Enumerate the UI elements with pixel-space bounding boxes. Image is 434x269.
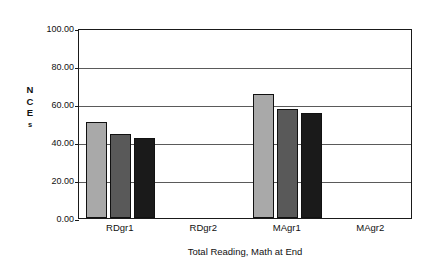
x-axis-tick-label: RDgr1 (78, 222, 162, 234)
y-axis-tick-label: 60.00 (30, 101, 74, 110)
x-axis-title: Total Reading, Math at End (78, 246, 412, 258)
bar (301, 113, 322, 218)
y-axis-tick-mark (75, 220, 79, 221)
bar (86, 122, 107, 218)
y-axis-tick-label: 40.00 (30, 139, 74, 148)
plot-area (78, 29, 412, 219)
bars-layer (79, 30, 411, 218)
bar-chart-figure: N C E s 100.0080.0060.0040.0020.000.00 R… (0, 0, 434, 269)
y-axis-tick-label: 100.00 (30, 25, 74, 34)
y-axis-tick-labels: 100.0080.0060.0040.0020.000.00 (28, 0, 74, 269)
y-axis-tick-label: 20.00 (30, 177, 74, 186)
x-axis-tick-label: MAgr2 (329, 222, 413, 234)
x-axis-tick-label: MAgr1 (245, 222, 329, 234)
y-axis-tick-label: 80.00 (30, 63, 74, 72)
y-axis-tick-label: 0.00 (30, 215, 74, 224)
bar (110, 134, 131, 218)
bar (253, 94, 274, 218)
bar (134, 138, 155, 218)
bar (277, 109, 298, 218)
x-axis-tick-label: RDgr2 (162, 222, 246, 234)
x-axis-tick-labels: RDgr1RDgr2MAgr1MAgr2 (78, 222, 412, 238)
